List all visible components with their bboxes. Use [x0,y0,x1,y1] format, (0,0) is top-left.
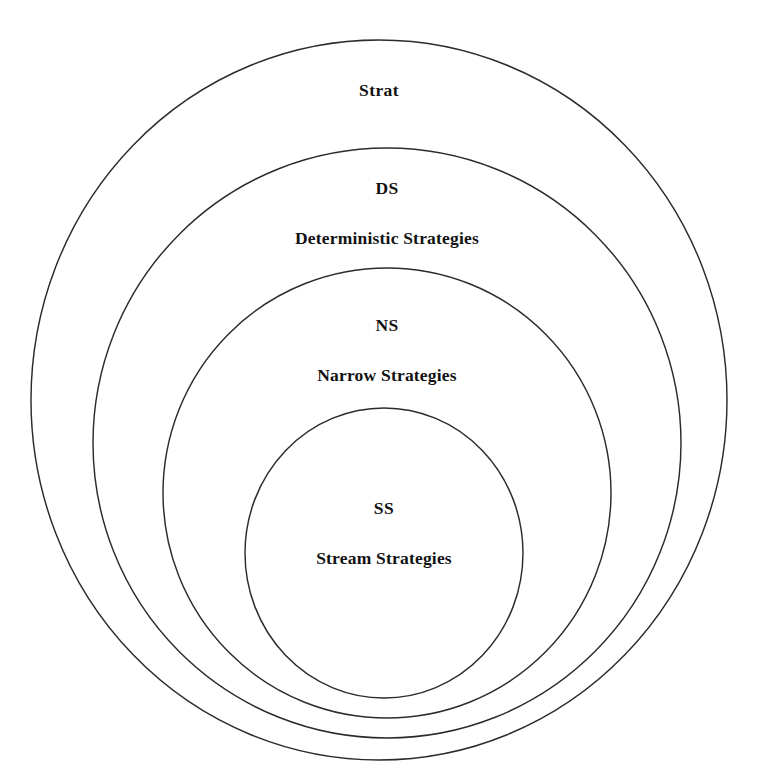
nested-venn-diagram: Strat DS Deterministic Strategies NS Nar… [0,0,760,784]
ring-outline-ns [163,268,611,718]
venn-circles-canvas [0,0,760,784]
ring-outline-ds [93,148,681,738]
ring-outline-ss [245,408,523,698]
